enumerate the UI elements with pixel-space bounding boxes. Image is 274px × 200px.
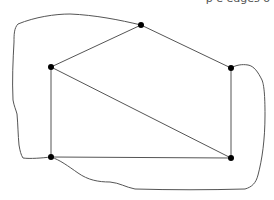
freeform-outline [13,14,265,190]
edge-left-bottom-right-diagonal [51,67,231,158]
vertex-left [48,64,54,70]
edge-left-top [51,25,141,67]
vertex-bottom-left [48,154,54,160]
vertex-top [138,22,144,28]
vertex-right [228,65,234,71]
edge-bottom-left-bottom-right [51,157,231,158]
edge-top-right [141,25,231,68]
graph-diagram [0,0,274,200]
vertex-bottom-right [228,155,234,161]
